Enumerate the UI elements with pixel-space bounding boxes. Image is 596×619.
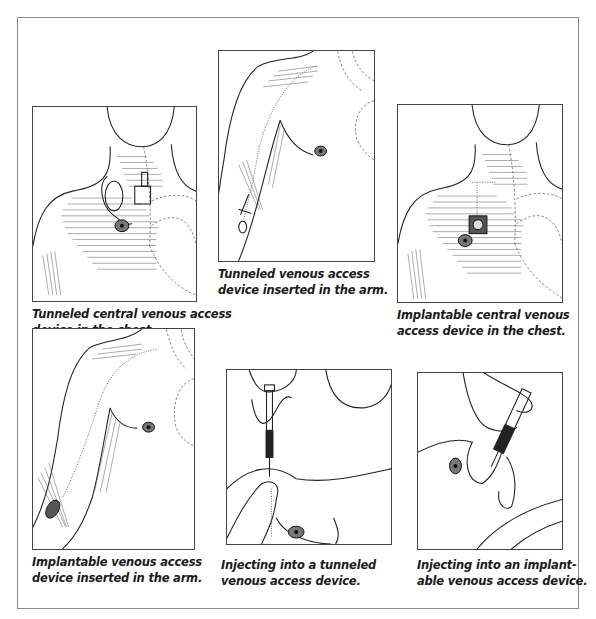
torso-chest-implanted-port-icon bbox=[398, 105, 562, 302]
caption-line: device inserted in the arm. bbox=[32, 570, 202, 586]
caption-line: Tunneled venous access bbox=[218, 266, 388, 282]
illustration-implantable-arm bbox=[32, 328, 195, 550]
illustration-tunneled-central-chest bbox=[32, 106, 197, 302]
illustration-injecting-implantable bbox=[417, 372, 563, 550]
caption-line: Injecting into an implant- bbox=[417, 557, 587, 573]
caption-tunneled-arm: Tunneled venous access device inserted i… bbox=[218, 266, 388, 298]
caption-line: venous access device. bbox=[221, 573, 376, 589]
caption-line: access device in the chest. bbox=[397, 323, 570, 339]
torso-chest-tunneled-catheter-icon bbox=[33, 107, 196, 301]
caption-implantable-central-chest: Implantable central venous access device… bbox=[397, 307, 570, 339]
caption-implantable-arm: Implantable venous access device inserte… bbox=[32, 554, 202, 586]
caption-line: Implantable central venous bbox=[397, 307, 570, 323]
caption-injecting-implantable: Injecting into an implant- able venous a… bbox=[417, 557, 587, 589]
arm-implanted-port-icon bbox=[33, 329, 194, 549]
illustration-tunneled-arm bbox=[218, 50, 375, 262]
caption-line: device inserted in the arm. bbox=[218, 282, 388, 298]
caption-line: Tunneled central venous access bbox=[32, 306, 232, 322]
arm-tunneled-catheter-icon bbox=[219, 51, 374, 261]
illustration-implantable-central-chest bbox=[397, 104, 563, 303]
hands-syringe-tunneled-icon bbox=[227, 370, 391, 544]
illustration-injecting-tunneled bbox=[226, 369, 392, 545]
caption-injecting-tunneled: Injecting into a tunneled venous access … bbox=[221, 557, 376, 589]
caption-line: Injecting into a tunneled bbox=[221, 557, 376, 573]
hands-syringe-implantable-icon bbox=[418, 373, 562, 549]
caption-line: able venous access device. bbox=[417, 573, 587, 589]
caption-line: Implantable venous access bbox=[32, 554, 202, 570]
